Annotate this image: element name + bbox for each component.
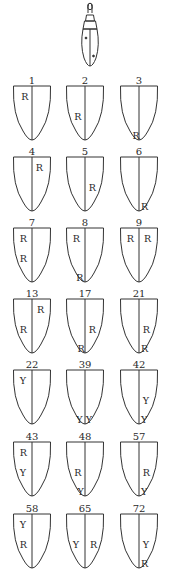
red-spot-label: R <box>36 163 43 173</box>
yellow-spot-label: Y <box>20 520 26 530</box>
pattern-cell: 13RR <box>10 289 54 355</box>
yellow-spot-label: Y <box>86 415 92 425</box>
red-spot-label: R <box>73 234 80 244</box>
red-spot-label: R <box>89 183 96 193</box>
elytra-shield-icon <box>66 513 104 569</box>
red-spot-label: R <box>143 468 150 478</box>
yellow-spot-label: Y <box>73 540 79 550</box>
red-spot-label: R <box>20 540 27 550</box>
red-spot-label: R <box>141 559 148 569</box>
pattern-cell: 39YY <box>63 360 107 426</box>
red-spot-label: R <box>74 468 81 478</box>
pattern-cell: 3R <box>117 76 161 142</box>
pattern-cell: 57RY <box>117 432 161 498</box>
yellow-spot-label: Y <box>143 396 149 406</box>
pattern-cell: 22Y <box>10 360 54 426</box>
elytra-shield-icon <box>13 369 51 425</box>
pattern-cell: 5R <box>63 147 107 213</box>
red-spot-label: R <box>90 540 97 550</box>
pattern-cell: 17RR <box>63 289 107 355</box>
elytra-shield-icon <box>13 85 51 141</box>
elytra-shield-icon <box>66 441 104 497</box>
elytra-shield-icon <box>13 156 51 212</box>
pattern-cell: 65YR <box>63 504 107 570</box>
pattern-cell: 6R <box>117 147 161 213</box>
yellow-spot-label: Y <box>141 487 147 497</box>
elytra-shield-icon <box>120 513 158 569</box>
red-spot-label: R <box>77 344 84 354</box>
elytra-shield-icon <box>66 85 104 141</box>
pattern-cell: 2R <box>63 76 107 142</box>
yellow-spot-label: Y <box>20 468 26 478</box>
elytra-shield-icon <box>13 441 51 497</box>
yellow-spot-label: Y <box>141 415 147 425</box>
pattern-cell: 8RR <box>63 218 107 284</box>
red-spot-label: R <box>37 305 44 315</box>
red-spot-label: R <box>20 325 27 335</box>
pattern-cell: 21RR <box>117 289 161 355</box>
red-spot-label: R <box>127 234 134 244</box>
yellow-spot-label: Y <box>143 540 149 550</box>
pattern-cell: 42YY <box>117 360 161 426</box>
elytra-shield-icon <box>66 156 104 212</box>
yellow-spot-label: Y <box>77 487 83 497</box>
elytra-shield-icon <box>120 156 158 212</box>
elytra-shield-icon <box>66 298 104 354</box>
pattern-cell: 7RR <box>10 218 54 284</box>
elytra-shield-icon <box>120 441 158 497</box>
elytra-shield-icon <box>120 227 158 283</box>
red-spot-label: R <box>144 234 151 244</box>
red-spot-label: R <box>76 273 83 283</box>
elytra-shield-icon <box>13 227 51 283</box>
red-spot-label: R <box>20 254 27 264</box>
pattern-cell: 72YR <box>117 504 161 570</box>
elytra-shield-icon <box>13 298 51 354</box>
elytra-shield-icon <box>120 298 158 354</box>
elytra-shield-icon <box>13 513 51 569</box>
beetle-icon <box>72 0 108 70</box>
red-spot-label: R <box>89 325 96 335</box>
pattern-cell: 4R <box>10 147 54 213</box>
pattern-cell: 43RY <box>10 432 54 498</box>
pattern-cell: 1R <box>10 76 54 142</box>
pattern-cell: 48RY <box>63 432 107 498</box>
elytra-shield-icon <box>66 227 104 283</box>
yellow-spot-label: Y <box>20 376 26 386</box>
red-spot-label: R <box>143 325 150 335</box>
red-spot-label: R <box>20 234 27 244</box>
elytra-shield-icon <box>120 369 158 425</box>
red-spot-label: R <box>141 344 148 354</box>
pattern-cell: 9RR <box>117 218 161 284</box>
pattern-cell: 58YR <box>10 504 54 570</box>
red-spot-label: R <box>20 448 27 458</box>
red-spot-label: R <box>133 131 140 141</box>
yellow-spot-label: Y <box>76 415 82 425</box>
red-spot-label: R <box>74 112 81 122</box>
red-spot-label: R <box>21 92 28 102</box>
red-spot-label: R <box>141 202 148 212</box>
